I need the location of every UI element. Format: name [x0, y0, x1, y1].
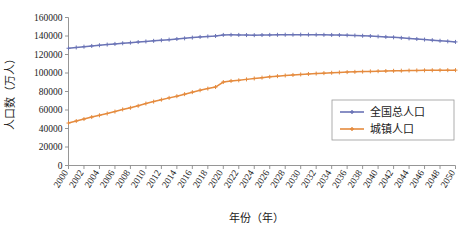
data-point-marker — [260, 33, 264, 37]
x-tick-label: 2040 — [361, 168, 380, 190]
x-tick-label: 2042 — [377, 168, 396, 190]
data-point-marker — [337, 33, 341, 37]
y-axis-tick-labels: 0200004000060000800001000001200001400001… — [34, 13, 63, 171]
data-point-marker — [214, 34, 218, 38]
data-point-marker — [392, 69, 396, 73]
data-point-marker — [415, 68, 419, 72]
data-point-marker — [299, 33, 303, 37]
data-point-marker — [384, 69, 388, 73]
y-tick-label: 140000 — [34, 31, 63, 41]
data-point-marker — [237, 33, 241, 37]
data-point-marker — [167, 38, 171, 42]
data-point-marker — [299, 72, 303, 76]
data-point-marker — [275, 33, 279, 37]
x-tick-label: 2048 — [423, 168, 442, 190]
data-point-marker — [67, 46, 71, 50]
data-point-marker — [74, 119, 78, 123]
data-point-marker — [345, 33, 349, 37]
data-point-marker — [330, 33, 334, 37]
data-point-marker — [167, 96, 171, 100]
data-point-marker — [423, 68, 427, 72]
data-point-marker — [128, 106, 132, 110]
data-point-marker — [361, 34, 365, 38]
x-tick-label: 2016 — [175, 168, 194, 190]
x-axis-group: 2000200220042006200820102012201420162018… — [52, 166, 458, 190]
data-point-marker — [322, 71, 326, 75]
y-axis-group: 0200004000060000800001000001200001400001… — [34, 13, 69, 171]
x-tick-label: 2044 — [392, 168, 411, 190]
data-point-marker — [82, 117, 86, 121]
legend-label: 城镇人口 — [370, 122, 414, 135]
data-point-marker — [198, 35, 202, 39]
x-tick-label: 2026 — [253, 168, 272, 190]
data-point-marker — [190, 36, 194, 40]
data-point-marker — [152, 39, 156, 43]
data-point-marker — [268, 33, 272, 37]
data-point-marker — [206, 87, 210, 91]
y-tick-label: 120000 — [34, 50, 63, 60]
data-point-marker — [74, 45, 78, 49]
data-point-marker — [144, 102, 148, 106]
data-point-marker — [245, 77, 249, 81]
data-point-marker — [252, 33, 256, 37]
data-point-marker — [430, 38, 434, 42]
x-tick-label: 2024 — [237, 168, 256, 190]
series-total-population — [67, 33, 458, 51]
data-point-marker — [368, 34, 372, 38]
x-tick-label: 2020 — [206, 168, 225, 190]
y-tick-label: 60000 — [39, 105, 63, 115]
legend-label: 全国总人口 — [370, 105, 425, 118]
data-point-marker — [368, 69, 372, 73]
data-point-marker — [361, 70, 365, 74]
x-tick-label: 2014 — [160, 168, 179, 190]
data-point-marker — [105, 43, 109, 47]
x-tick-label: 2002 — [67, 168, 86, 190]
population-line-chart: 0200004000060000800001000001200001400001… — [0, 0, 472, 233]
data-point-marker — [245, 33, 249, 37]
data-point-marker — [159, 38, 163, 42]
data-point-marker — [67, 121, 71, 125]
data-point-marker — [330, 71, 334, 75]
data-point-marker — [283, 73, 287, 77]
y-axis-title: 人口数（万人） — [4, 53, 16, 130]
x-tick-label: 2046 — [408, 168, 427, 190]
y-tick-label: 80000 — [39, 87, 63, 97]
y-axis-ticks — [65, 18, 69, 166]
data-point-marker — [322, 33, 326, 37]
data-point-marker — [306, 33, 310, 37]
data-point-marker — [121, 107, 125, 111]
data-point-marker — [407, 69, 411, 73]
data-point-marker — [260, 76, 264, 80]
data-point-marker — [337, 70, 341, 74]
data-point-marker — [446, 68, 450, 72]
data-point-marker — [97, 113, 101, 117]
data-point-marker — [415, 37, 419, 41]
data-point-marker — [454, 68, 458, 72]
data-point-marker — [399, 36, 403, 40]
data-point-marker — [159, 98, 163, 102]
x-tick-label: 2010 — [129, 168, 148, 190]
x-tick-label: 2028 — [268, 168, 287, 190]
data-point-marker — [407, 36, 411, 40]
data-point-marker — [291, 73, 295, 77]
x-tick-label: 2004 — [83, 168, 102, 190]
data-point-marker — [353, 33, 357, 37]
data-point-marker — [314, 72, 318, 76]
data-point-marker — [82, 45, 86, 49]
data-point-marker — [206, 34, 210, 38]
data-point-marker — [128, 41, 132, 45]
data-point-marker — [353, 70, 357, 74]
y-tick-label: 20000 — [39, 142, 63, 152]
x-axis-title: 年份（年） — [229, 211, 284, 224]
data-point-marker — [183, 36, 187, 40]
data-point-marker — [105, 112, 109, 116]
x-tick-label: 2006 — [98, 168, 117, 190]
data-point-marker — [136, 104, 140, 108]
data-point-marker — [221, 33, 225, 37]
data-point-marker — [438, 68, 442, 72]
data-point-marker — [136, 40, 140, 44]
data-point-marker — [423, 38, 427, 42]
data-point-marker — [175, 37, 179, 41]
data-point-marker — [229, 79, 233, 83]
data-point-marker — [291, 33, 295, 37]
